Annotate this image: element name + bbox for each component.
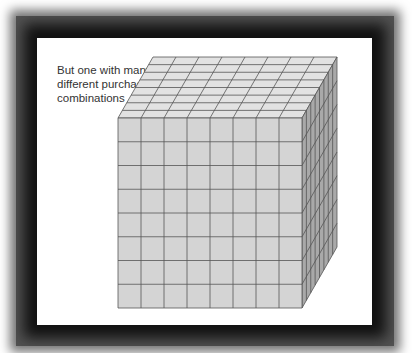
cube-diagram xyxy=(0,0,412,353)
